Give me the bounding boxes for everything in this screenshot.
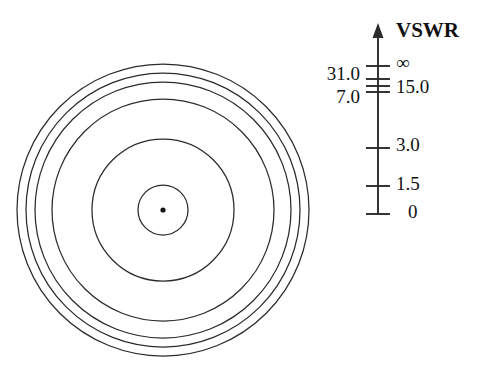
- label-3-0: 3.0: [396, 134, 420, 155]
- label-1-5: 1.5: [396, 173, 420, 194]
- axis-arrow-up-icon: [373, 23, 384, 38]
- vswr-scale-axis: [366, 23, 390, 214]
- vswr-circle-group: [17, 64, 309, 356]
- figure-root: VSWR ∞ 15.0 3.0 1.5 0 31.0 7.0: [0, 0, 483, 374]
- label-31-0: 31.0: [327, 63, 360, 84]
- vswr-figure-canvas: VSWR ∞ 15.0 3.0 1.5 0 31.0 7.0: [0, 0, 483, 374]
- label-0: 0: [408, 201, 418, 222]
- label-7-0: 7.0: [336, 86, 360, 107]
- axis-labels-left: 31.0 7.0: [327, 63, 360, 107]
- label-infinity: ∞: [396, 52, 410, 73]
- axis-title-vswr: VSWR: [396, 18, 460, 42]
- label-15-0: 15.0: [396, 76, 429, 97]
- center-point-dot: [160, 207, 165, 212]
- axis-labels-right: ∞ 15.0 3.0 1.5 0: [396, 52, 429, 222]
